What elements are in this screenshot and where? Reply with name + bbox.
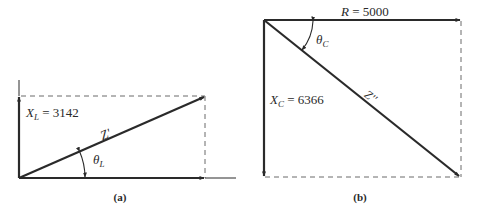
caption-b: (b): [353, 191, 367, 204]
r-label: R = 5000: [340, 4, 389, 19]
xc-label: XC = 6366: [269, 92, 324, 109]
figure-a: XL = 3142 Z' θL (a): [19, 80, 236, 204]
theta-c-arc-icon: [302, 21, 313, 50]
z-label: Z'': [362, 87, 380, 106]
phasor-diagrams: XL = 3142 Z' θL (a) R = 5000 θC XC = 636…: [0, 0, 477, 211]
caption-a: (a): [114, 191, 127, 204]
theta-c-label: θC: [316, 32, 329, 49]
theta-l-arc-icon: [80, 152, 85, 178]
z-label: Z': [98, 125, 113, 143]
xl-label: XL = 3142: [25, 105, 79, 122]
figure-b: R = 5000 θC XC = 6366 Z'' (b): [264, 4, 461, 204]
theta-l-label: θL: [93, 152, 104, 169]
